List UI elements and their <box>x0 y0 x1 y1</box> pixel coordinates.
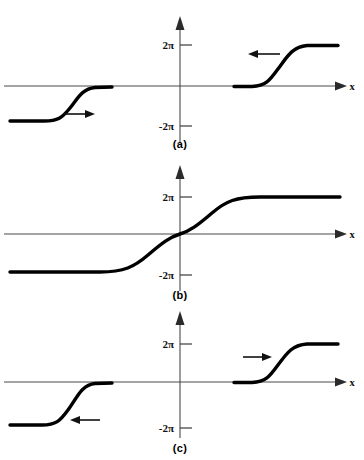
x-axis-arrowhead-b <box>335 230 347 239</box>
curve-right-kink-c <box>234 344 338 383</box>
direction-arrow-right-c <box>243 353 272 361</box>
curve-left-kink-c <box>10 383 112 425</box>
y-axis-arrowhead-c <box>176 311 185 325</box>
panel-caption-b: (b) <box>173 289 188 301</box>
direction-arrow-left-a <box>248 50 280 58</box>
direction-arrow-left-c <box>70 416 100 424</box>
panel-c: x 2π -2π (c) <box>0 305 364 460</box>
tick-label-neg2pi-a: -2π <box>159 120 174 132</box>
tick-label-2pi-b: 2π <box>162 191 174 203</box>
tick-label-2pi-c: 2π <box>162 338 174 350</box>
x-axis-label-a: x <box>349 81 355 92</box>
tick-label-neg2pi-b: -2π <box>159 269 174 281</box>
x-axis-label-c: x <box>349 377 355 388</box>
x-axis-label-b: x <box>349 229 355 240</box>
panel-caption-c: (c) <box>173 442 187 454</box>
tick-label-2pi-a: 2π <box>162 39 174 51</box>
panel-b: x 2π -2π (b) <box>0 155 364 305</box>
y-axis-arrowhead-a <box>176 16 185 30</box>
panel-caption-a: (a) <box>173 138 187 150</box>
curve-right-kink-a <box>234 46 338 87</box>
x-axis-arrowhead-a <box>335 82 347 91</box>
x-axis-arrowhead-c <box>335 378 347 387</box>
curve-left-kink-a <box>10 87 112 121</box>
panel-a: x 2π -2π (a) <box>0 0 364 155</box>
y-axis-arrowhead-b <box>176 165 185 179</box>
tick-label-neg2pi-c: -2π <box>159 422 174 434</box>
figure-root: x 2π -2π (a) x <box>0 0 364 460</box>
